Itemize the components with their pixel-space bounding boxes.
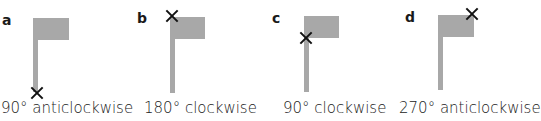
flag-pole (304, 16, 309, 92)
caption: 270° anticlockwise (399, 99, 541, 117)
flag-pole (170, 17, 175, 93)
rotation-centre-icon (299, 31, 313, 45)
rotation-centre-icon (165, 9, 179, 23)
caption: 90° clockwise (283, 99, 386, 117)
panel-letter: a (2, 13, 11, 27)
rotation-centre-icon (30, 86, 44, 100)
flag-pole (33, 18, 38, 92)
rotation-centre-icon (465, 7, 479, 21)
caption: 90° anticlockwise (1, 99, 133, 117)
panel-letter: c (272, 11, 280, 25)
flag (33, 18, 69, 40)
caption: 180° clockwise (144, 99, 257, 117)
flag-pole (438, 15, 443, 90)
panel-letter: b (137, 11, 147, 25)
panel-letter: d (405, 10, 415, 24)
